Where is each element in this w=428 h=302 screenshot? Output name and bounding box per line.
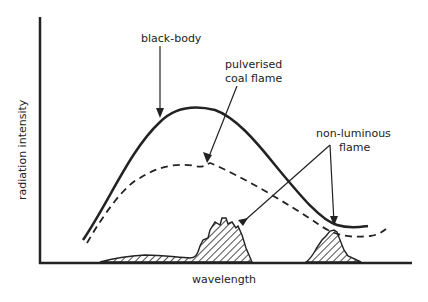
arrowhead xyxy=(238,218,248,226)
nonlum-pointer-2 xyxy=(330,145,334,223)
pulverised-pointer xyxy=(208,86,237,159)
label-pulverised-line1: pulverised xyxy=(225,58,282,71)
x-axis-label: wavelength xyxy=(192,273,256,286)
label-pulverised-line2: coal flame xyxy=(225,72,282,85)
arrowhead xyxy=(156,108,164,118)
band-2 xyxy=(306,230,361,262)
radiation-diagram: black-body pulverised coal flame non-lum… xyxy=(0,0,428,302)
label-black-body: black-body xyxy=(141,32,202,45)
label-nonlum-line2: flame xyxy=(339,141,370,154)
label-nonlum-line1: non-luminous xyxy=(316,127,391,140)
band-1 xyxy=(100,218,252,262)
non-luminous-bands xyxy=(100,218,361,262)
y-axis-label: radiation intensity xyxy=(16,99,29,200)
